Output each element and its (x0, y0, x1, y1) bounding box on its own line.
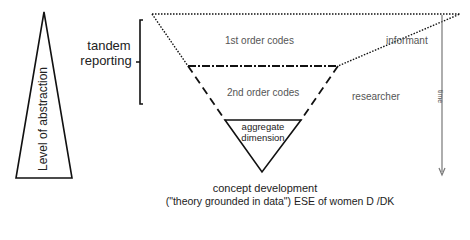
time-label: time (437, 90, 444, 103)
tandem-label-line2: reporting (78, 53, 134, 68)
second-order-label: 2nd order codes (227, 87, 299, 98)
aggregate-label-line2: dimension (236, 132, 290, 143)
tandem-bracket (136, 20, 143, 104)
informant-label: informant (386, 35, 428, 46)
caption-line2: ("theory grounded in data") ESE of women… (150, 195, 410, 207)
tandem-label-line1: tandem (84, 38, 134, 53)
first-order-label: 1st order codes (225, 35, 294, 46)
caption-line1: concept development (150, 182, 380, 194)
abstraction-label: Level of abstraction (36, 54, 50, 184)
aggregate-label-line1: aggregate (236, 121, 290, 132)
researcher-label: researcher (352, 91, 400, 102)
